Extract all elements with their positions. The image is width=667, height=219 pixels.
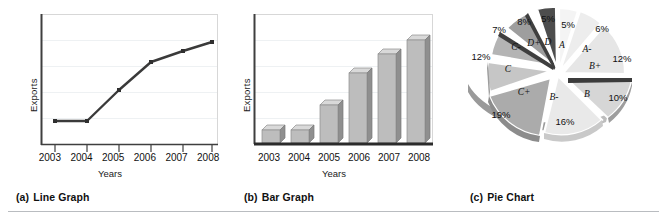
caption-line-graph: (a)Line Graph — [16, 191, 90, 203]
figure-bottom-rule — [8, 211, 659, 212]
figure-container: Exports — [0, 0, 667, 219]
panel-pie-chart: A 5% A- 6% B+ 12% B 10% B- 16% C+ 19% C … — [456, 0, 667, 219]
pie-label-D: D — [544, 37, 552, 47]
bar-2007 — [378, 49, 401, 143]
bar-2003 — [262, 125, 285, 143]
bar-x-tick-labels: 2003 2004 2005 2006 2007 2008 — [254, 152, 434, 163]
pie-label-A: A — [558, 40, 565, 50]
line-x-tick-labels: 2003 2004 2005 2006 2007 2008 — [34, 152, 224, 163]
line-tick-2003: 2003 — [34, 152, 66, 163]
line-x-axis-title: Years — [98, 168, 122, 179]
pie-label-A-minus: A- — [582, 44, 592, 54]
pie-pct-C-minus: 7% — [492, 24, 506, 35]
line-tick-2005: 2005 — [97, 152, 129, 163]
bar-2005 — [320, 100, 343, 143]
panel-bar-graph: Exports — [228, 0, 456, 219]
pie-label-C: C — [505, 64, 512, 74]
caption-line-graph-text: Line Graph — [33, 191, 89, 203]
bar-tick-2004: 2004 — [284, 152, 314, 163]
pie-label-D-plus: D+ — [526, 38, 540, 48]
pie-label-B: B — [584, 89, 590, 99]
bar-2006 — [349, 68, 372, 143]
pie-pct-A: 5% — [561, 19, 575, 30]
pie-chart-plot: A 5% A- 6% B+ 12% B 10% B- 16% C+ 19% C … — [456, 0, 667, 180]
caption-bar-graph-label: (b) — [244, 191, 258, 203]
pie-pct-A-minus: 6% — [595, 23, 609, 34]
line-tick-2008: 2008 — [192, 152, 224, 163]
bar-graph-plot — [228, 0, 456, 152]
line-x-ticks — [55, 145, 212, 152]
pie-label-C-minus: C- — [511, 42, 521, 52]
bar-tick-2003: 2003 — [254, 152, 284, 163]
line-tick-2007: 2007 — [161, 152, 193, 163]
bar-2004 — [291, 125, 314, 143]
caption-pie-chart: (c)Pie Chart — [470, 191, 534, 203]
bar-tick-2006: 2006 — [344, 152, 374, 163]
pie-pct-D-plus: 8% — [517, 16, 531, 27]
line-tick-2006: 2006 — [129, 152, 161, 163]
pie-pct-C: 12% — [471, 51, 491, 62]
caption-pie-chart-label: (c) — [470, 191, 483, 203]
bar-x-axis-title: Years — [322, 168, 346, 179]
pie-pct-B-plus: 12% — [612, 53, 632, 64]
line-tick-2004: 2004 — [66, 152, 98, 163]
line-graph-plot — [0, 0, 228, 152]
bar-2008 — [407, 35, 430, 143]
caption-bar-graph: (b)Bar Graph — [244, 191, 314, 203]
bar-tick-2008: 2008 — [404, 152, 434, 163]
pie-label-B-minus: B- — [550, 92, 559, 102]
pie-label-B-plus: B+ — [589, 61, 601, 71]
caption-bar-graph-text: Bar Graph — [262, 191, 314, 203]
bar-tick-2007: 2007 — [374, 152, 404, 163]
pie-label-C-plus: C+ — [518, 87, 531, 97]
caption-line-graph-label: (a) — [16, 191, 29, 203]
pie-pct-C-plus: 19% — [491, 109, 511, 120]
panel-line-graph: Exports — [0, 0, 228, 219]
pie-pct-D: 5% — [541, 13, 555, 24]
bar-tick-2005: 2005 — [314, 152, 344, 163]
pie-pct-B: 10% — [608, 92, 628, 103]
pie-pct-B-minus: 16% — [555, 116, 575, 127]
caption-pie-chart-text: Pie Chart — [487, 191, 534, 203]
